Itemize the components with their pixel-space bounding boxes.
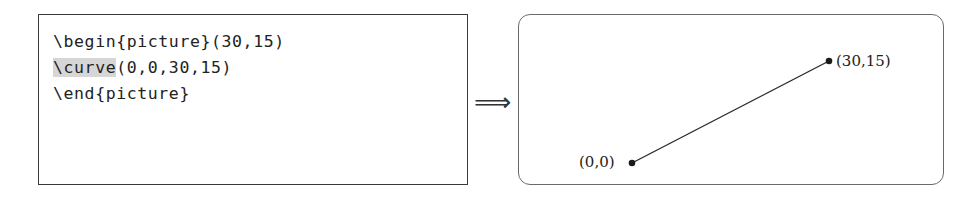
curve-line: [632, 61, 829, 163]
end-point-dot: [826, 58, 833, 65]
end-point-label: (30,15): [836, 52, 891, 70]
curve-plot: (0,0) (30,15): [0, 0, 979, 198]
start-point-dot: [629, 160, 636, 167]
start-point-label: (0,0): [579, 153, 615, 171]
